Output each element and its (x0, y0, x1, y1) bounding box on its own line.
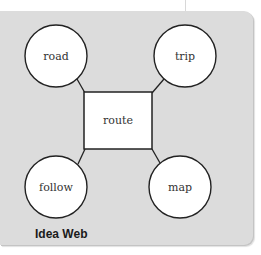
edge-route-road (77, 79, 85, 93)
edge-route-follow (78, 149, 85, 164)
idea-web-diagram (0, 0, 261, 255)
node-map-label: map (168, 181, 192, 194)
node-road-label: road (43, 50, 68, 63)
edge-route-trip (152, 79, 164, 93)
node-trip-label: trip (175, 50, 195, 63)
diagram-caption: Idea Web (35, 227, 87, 241)
edge-route-map (152, 149, 160, 163)
node-route-label: route (103, 114, 133, 127)
idea-web-figure: road trip route follow map Idea Web (0, 0, 261, 255)
node-follow-label: follow (39, 181, 73, 194)
